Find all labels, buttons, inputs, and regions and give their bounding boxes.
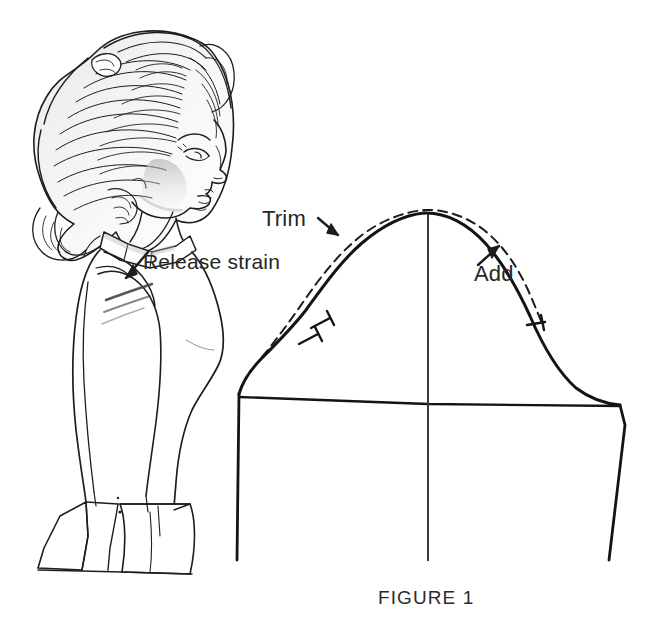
annotation-label-add: Add: [474, 261, 514, 287]
trim-arrow-icon: [318, 218, 338, 235]
figure-page: Release strain Trim Add FIGURE 1: [0, 0, 656, 643]
back-double-notch: [299, 311, 334, 344]
annotation-label-release-strain: Release strain: [143, 250, 280, 274]
annotation-label-trim: Trim: [262, 206, 306, 232]
original-cap-solid-line: [237, 213, 625, 560]
figure-caption: FIGURE 1: [378, 587, 474, 609]
sleeve-cap-pattern: [0, 0, 656, 643]
